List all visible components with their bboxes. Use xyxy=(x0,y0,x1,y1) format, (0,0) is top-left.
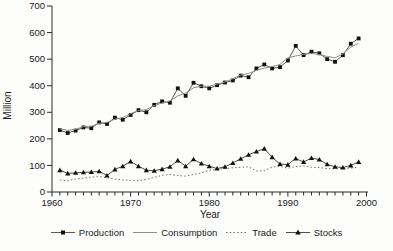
chart-legend: Production Consumption Trade Stocks xyxy=(0,227,393,238)
legend-item-trade: Trade xyxy=(226,227,276,238)
legend-item-consumption: Consumption xyxy=(133,227,217,238)
x-tick-label: 1980 xyxy=(199,197,220,208)
x-tick-label: 2000 xyxy=(356,197,377,208)
legend-item-stocks: Stocks xyxy=(286,227,343,238)
axes xyxy=(52,6,368,192)
x-axis-label: Year xyxy=(52,209,368,220)
y-axis-ticks: 0100200300400500600700 xyxy=(29,0,52,197)
chart-figure: 0100200300400500600700196019701980199020… xyxy=(0,0,393,251)
y-tick-label: 400 xyxy=(29,80,45,91)
y-tick-label: 600 xyxy=(29,27,45,38)
legend-label-consumption: Consumption xyxy=(161,227,217,238)
consumption-line-icon xyxy=(133,228,157,237)
legend-label-production: Production xyxy=(79,227,124,238)
legend-item-production: Production xyxy=(51,227,124,238)
y-tick-label: 700 xyxy=(29,0,45,11)
y-tick-label: 200 xyxy=(29,133,45,144)
x-tick-label: 1970 xyxy=(120,197,141,208)
x-axis-ticks: 19601970198019902000 xyxy=(41,192,377,208)
y-tick-label: 100 xyxy=(29,160,45,171)
legend-label-trade: Trade xyxy=(252,227,276,238)
y-axis-label: Million xyxy=(2,75,15,137)
y-tick-label: 0 xyxy=(40,186,45,197)
y-tick-label: 500 xyxy=(29,53,45,64)
stocks-line-triangle-icon xyxy=(286,228,310,237)
x-tick-label: 1960 xyxy=(41,197,62,208)
trade-dotted-line-icon xyxy=(226,228,248,237)
x-tick-label: 1990 xyxy=(277,197,298,208)
y-tick-label: 300 xyxy=(29,106,45,117)
legend-label-stocks: Stocks xyxy=(314,227,343,238)
series-stocks xyxy=(57,146,361,177)
production-line-square-icon xyxy=(51,228,75,237)
